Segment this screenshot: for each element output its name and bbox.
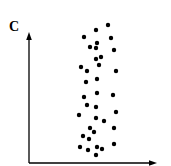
data-point xyxy=(100,147,104,151)
data-point xyxy=(114,110,118,114)
data-point xyxy=(95,91,99,95)
data-point xyxy=(77,113,81,117)
data-point xyxy=(94,116,98,120)
data-points xyxy=(77,23,118,157)
data-point xyxy=(95,77,99,81)
data-point xyxy=(86,148,90,152)
data-point xyxy=(97,63,101,67)
scatter-plot xyxy=(0,0,171,166)
data-point xyxy=(88,126,92,130)
data-point xyxy=(88,45,92,49)
data-point xyxy=(102,119,106,123)
data-point xyxy=(114,69,118,73)
data-point xyxy=(109,36,113,40)
data-point xyxy=(94,153,98,157)
data-point xyxy=(111,93,115,97)
data-point xyxy=(99,55,103,59)
data-point xyxy=(106,23,110,27)
data-point xyxy=(94,57,98,61)
data-point xyxy=(79,65,83,69)
data-point xyxy=(78,145,82,149)
data-point xyxy=(85,103,89,107)
data-point xyxy=(87,137,91,141)
y-axis-arrow-icon xyxy=(26,32,32,40)
x-axis-arrow-icon xyxy=(149,160,157,166)
data-point xyxy=(112,48,116,52)
data-point xyxy=(92,130,96,134)
data-point xyxy=(85,69,89,73)
data-point xyxy=(82,95,86,99)
data-point xyxy=(112,142,116,146)
data-point xyxy=(82,35,86,39)
data-point xyxy=(112,126,116,130)
data-point xyxy=(94,46,98,50)
data-point xyxy=(95,41,99,45)
data-point xyxy=(81,134,85,138)
data-point xyxy=(94,28,98,32)
axes xyxy=(26,32,157,166)
data-point xyxy=(95,145,99,149)
data-point xyxy=(94,105,98,109)
data-point xyxy=(84,80,88,84)
